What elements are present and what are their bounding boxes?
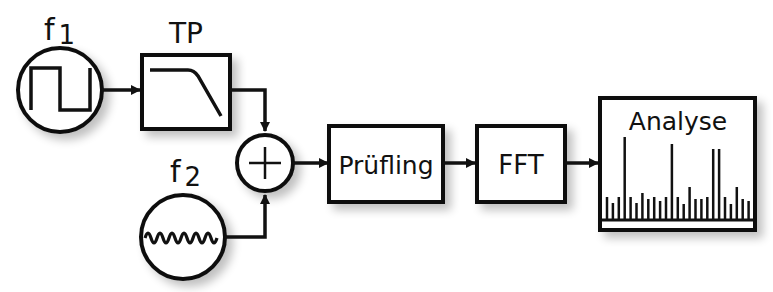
lowpass-label: TP [168,17,203,50]
block-sum [237,135,293,191]
arrow-f2-to-sum [225,195,265,237]
block-fft: FFT [477,126,565,202]
fft-label: FFT [498,150,543,180]
lowpass-box [142,55,230,129]
source-f2-label: f2 [170,154,201,192]
dut-label: Prüfling [338,151,433,180]
source-f1-label: f1 [44,12,75,50]
source-f2: f2 [141,154,225,279]
block-dut: Prüfling [329,126,443,202]
source-f1: f1 [18,12,102,132]
signal-chain-diagram: f1 TP f2 Prüfling FFT [0,0,773,292]
arrow-tp-to-sum [230,90,265,131]
analysis-label: Analyse [629,107,727,136]
block-lowpass: TP [142,17,230,129]
block-analysis: Analyse [600,98,755,230]
